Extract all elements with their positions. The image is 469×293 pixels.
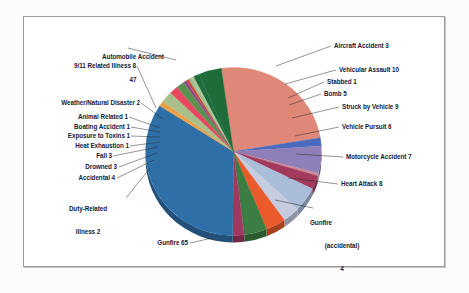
label-weather-natural-disaster: Weather/Natural Disaster 2 bbox=[16, 99, 140, 107]
label-nine-eleven-related-illness: 9/11 Related Illness 8 bbox=[36, 62, 136, 70]
chart-page: Automobile Accident 47 9/11 Related Illn… bbox=[0, 0, 469, 293]
label-duty-related-illness: Duty-Related Illness 2 bbox=[52, 190, 124, 251]
label-stabbed: Stabbed 1 bbox=[327, 78, 407, 86]
label-heart-attack: Heart Attack 8 bbox=[341, 180, 435, 188]
label-animal-related: Animal Related 1 bbox=[30, 113, 128, 121]
label-duty-related-illness-line2: Illness 2 bbox=[52, 228, 124, 236]
label-automobile-accident-line2: 47 bbox=[90, 76, 176, 84]
label-vehicle-pursuit: Vehicle Pursuit 6 bbox=[342, 123, 446, 131]
leader-duty-illness bbox=[126, 168, 150, 198]
label-vehicular-assault: Vehicular Assault 10 bbox=[339, 66, 455, 74]
label-drowned: Drowned 3 bbox=[48, 163, 117, 171]
pie-slice-automobile-accident[interactable] bbox=[221, 68, 320, 152]
label-duty-related-illness-line1: Duty-Related bbox=[52, 205, 124, 213]
label-gunfire-accidental-line2: (accidental) bbox=[310, 242, 374, 250]
label-gunfire-accidental-line1: Gunfire bbox=[310, 219, 374, 227]
leader-gunfire bbox=[190, 238, 212, 243]
label-accidental: Accidental 4 bbox=[36, 174, 115, 182]
label-gunfire: Gunfire 65 bbox=[128, 239, 188, 247]
leader-aircraft-accident bbox=[276, 46, 331, 66]
label-struck-by-vehicle: Struck by Vehicle 9 bbox=[342, 103, 454, 111]
label-aircraft-accident: Aircraft Accident 3 bbox=[334, 42, 444, 50]
label-exposure-to-toxins: Exposure to Toxins 1 bbox=[20, 132, 130, 140]
label-heat-exhaustion: Heat Exhaustion 1 bbox=[24, 142, 129, 150]
pie-slice-side-gunfire-accidental bbox=[233, 235, 245, 243]
label-motorcycle-accident: Motorcycle Accident 7 bbox=[346, 153, 466, 161]
label-fall: Fall 3 bbox=[62, 152, 112, 160]
label-boating-accident: Boating Accident 1 bbox=[26, 123, 130, 131]
label-bomb: Bomb 5 bbox=[324, 90, 394, 98]
label-gunfire-accidental-line3: 4 bbox=[310, 265, 374, 273]
label-automobile-accident-line1: Automobile Accident bbox=[90, 53, 176, 61]
label-gunfire-accidental: Gunfire (accidental) 4 bbox=[310, 204, 374, 288]
